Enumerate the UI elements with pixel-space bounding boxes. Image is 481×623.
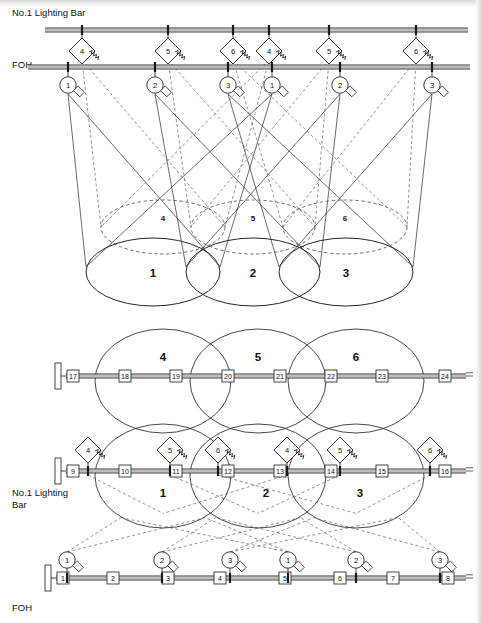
socket-box-label: 18 <box>121 373 129 380</box>
socket-box-label: 8 <box>446 575 450 582</box>
socket-box-label: 5 <box>283 575 287 582</box>
plan-fixtures: 456456123123 <box>59 437 457 583</box>
socket-box-21[interactable]: 21 <box>274 370 286 382</box>
plan-throw-dashed <box>121 518 288 552</box>
plan-circle-lower <box>288 424 424 528</box>
plan-upper-bar <box>55 363 473 389</box>
socket-box-label: 9 <box>71 468 75 475</box>
socket-box-10[interactable]: 10 <box>119 465 131 477</box>
socket-box-16[interactable]: 16 <box>439 465 451 477</box>
socket-box-label: 6 <box>338 575 342 582</box>
elev-beam-edge-dashed <box>407 60 416 227</box>
plan-throw-dashed <box>216 518 356 552</box>
socket-box-label: 7 <box>391 575 395 582</box>
elev-beam-edge <box>228 94 413 267</box>
fixture-number: 2 <box>338 81 342 90</box>
elevation-lighting-bar <box>45 28 468 32</box>
socket-box-8[interactable]: 8 <box>442 572 454 584</box>
elev-beam-edge <box>413 94 432 267</box>
plan-circle-lower <box>190 424 326 528</box>
plan-foh-label: FOH <box>12 602 32 613</box>
plan-throw-dashed <box>205 518 288 552</box>
plan-beam-lines <box>67 475 440 552</box>
socket-box-20[interactable]: 20 <box>222 370 234 382</box>
plan-circle-upper-label: 4 <box>160 351 167 363</box>
lighting-plot-figure: No.1 Lighting Bar FOH 456 123 4564561231… <box>0 0 481 623</box>
socket-box-23[interactable]: 23 <box>376 370 388 382</box>
plan-throw-dashed <box>67 518 121 552</box>
elev-pool-solid-label: 1 <box>150 267 157 279</box>
socket-box-15[interactable]: 15 <box>376 465 388 477</box>
elev-pool-dashed-label: 6 <box>343 214 348 223</box>
socket-box-22[interactable]: 22 <box>325 370 337 382</box>
socket-box-14[interactable]: 14 <box>325 465 337 477</box>
elev-beam-edge <box>279 94 432 267</box>
socket-box-label: 17 <box>69 373 77 380</box>
elev-pool-dashed-label: 4 <box>161 214 166 223</box>
plan-throw-dashed <box>230 518 398 552</box>
socket-box-11[interactable]: 11 <box>170 465 182 477</box>
fixture-number: 1 <box>66 81 70 90</box>
plan-throw-dashed <box>314 518 440 552</box>
plan-throw-dashed <box>170 475 258 513</box>
plan-beam-circles: 456123 <box>95 329 424 528</box>
elev-beam-edge <box>220 94 272 267</box>
plan-circle-upper <box>190 329 326 433</box>
elevation-foh-bar <box>28 65 470 69</box>
plan-throw-dashed <box>162 518 216 552</box>
fixture-number: 4 <box>285 446 289 455</box>
plan-throw-dashed <box>230 518 314 552</box>
fixture-number: 3 <box>226 81 230 90</box>
fixture-number: 1 <box>270 81 274 90</box>
socket-box-17[interactable]: 17 <box>67 370 79 382</box>
plan-view: No.1 Lighting Bar FOH 456123 17181920212… <box>12 329 473 613</box>
fixture-number: 2 <box>354 556 358 565</box>
fixture-number: 3 <box>438 556 442 565</box>
socket-box-5[interactable]: 5 <box>279 572 291 584</box>
plan-middle-bar-end-bracket <box>55 458 61 484</box>
elevation-dashed-pools: 456 <box>101 200 407 254</box>
socket-box-label: 23 <box>378 373 386 380</box>
fixture-number: 4 <box>80 47 84 56</box>
socket-box-12[interactable]: 12 <box>222 465 234 477</box>
socket-box-label: 16 <box>441 468 449 475</box>
fixture-number: 4 <box>86 446 90 455</box>
socket-box-19[interactable]: 19 <box>170 370 182 382</box>
socket-box-label: 10 <box>121 468 129 475</box>
elev-beam-edge <box>320 94 340 267</box>
plan-throw-dashed <box>300 518 356 552</box>
socket-box-18[interactable]: 18 <box>119 370 131 382</box>
socket-box-label: 2 <box>111 575 115 582</box>
plan-throw-dashed <box>218 475 356 513</box>
socket-box-6[interactable]: 6 <box>334 572 346 584</box>
elevation-solid-pools: 123 <box>86 238 413 306</box>
socket-box-9[interactable]: 9 <box>67 465 79 477</box>
plan-circle-upper <box>95 329 231 433</box>
plan-lighting-bar-label-line1: No.1 Lighting <box>12 487 68 498</box>
plan-circle-upper-label: 5 <box>255 351 262 363</box>
socket-box-24[interactable]: 24 <box>439 370 451 382</box>
socket-box-4[interactable]: 4 <box>214 572 226 584</box>
socket-box-13[interactable]: 13 <box>274 465 286 477</box>
plan-throw-dashed <box>258 475 340 513</box>
elev-beam-edge <box>68 94 220 267</box>
elev-beam-edge <box>68 94 86 267</box>
plan-middle-bar <box>55 458 473 484</box>
socket-box-7[interactable]: 7 <box>387 572 399 584</box>
socket-box-label: 14 <box>327 468 335 475</box>
fixture-number: 2 <box>160 556 164 565</box>
fixture-number: 2 <box>153 81 157 90</box>
socket-box-2[interactable]: 2 <box>107 572 119 584</box>
fixture-number: 5 <box>327 47 331 56</box>
socket-box-3[interactable]: 3 <box>162 572 174 584</box>
socket-box-label: 12 <box>224 468 232 475</box>
elevation-lighting-bar-label: No.1 Lighting Bar <box>12 7 85 18</box>
elev-pool-dashed <box>101 200 225 254</box>
fixture-number: 5 <box>168 446 172 455</box>
plan-circle-lower-label: 1 <box>160 487 167 499</box>
elevation-fixtures: 456456123123 <box>60 25 449 97</box>
socket-box-label: 21 <box>276 373 284 380</box>
socket-box-label: 24 <box>441 373 449 380</box>
socket-box-label: 3 <box>166 575 170 582</box>
elev-pool-solid-label: 2 <box>250 267 256 279</box>
